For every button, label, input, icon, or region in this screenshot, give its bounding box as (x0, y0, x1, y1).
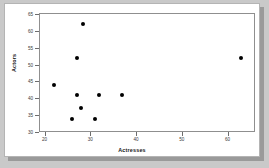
y-tick-label: 50 (28, 62, 33, 67)
data-point (75, 56, 79, 60)
y-tick-label: 40 (28, 96, 33, 101)
chart-card: 3035404550556065 2030405060 Actresses Ac… (4, 3, 260, 157)
y-tick-label: 60 (28, 28, 33, 33)
y-tick-label: 65 (28, 12, 33, 17)
x-tick-label: 50 (179, 137, 184, 142)
data-point (52, 83, 56, 87)
data-point (75, 93, 79, 97)
x-tick-mark (182, 132, 183, 136)
y-tick-label: 35 (28, 113, 33, 118)
data-point (97, 93, 101, 97)
y-tick-mark (35, 48, 39, 49)
data-point (70, 117, 74, 121)
x-tick-label: 30 (88, 137, 93, 142)
data-point (81, 22, 85, 26)
y-tick-label: 55 (28, 45, 33, 50)
y-tick-mark (35, 81, 39, 82)
x-tick-label: 40 (134, 137, 139, 142)
y-tick-mark (35, 98, 39, 99)
x-tick-label: 20 (42, 137, 47, 142)
y-axis-title: Actors (11, 54, 17, 72)
y-tick-label: 45 (28, 79, 33, 84)
y-tick-mark (35, 65, 39, 66)
data-point (93, 117, 97, 121)
y-tick-mark (35, 14, 39, 15)
screenshot-root: 3035404550556065 2030405060 Actresses Ac… (0, 0, 269, 168)
data-point (120, 93, 124, 97)
data-point (79, 106, 83, 110)
y-axis: 3035404550556065 (5, 4, 39, 168)
x-tick-mark (228, 132, 229, 136)
x-axis-title: Actresses (5, 147, 259, 153)
y-tick-label: 30 (28, 130, 33, 135)
y-tick-mark (35, 31, 39, 32)
x-tick-mark (45, 132, 46, 136)
data-point (239, 56, 243, 60)
y-tick-mark (35, 132, 39, 133)
x-tick-mark (136, 132, 137, 136)
x-tick-label: 60 (225, 137, 230, 142)
x-tick-mark (90, 132, 91, 136)
plot-area (40, 14, 255, 132)
y-tick-mark (35, 115, 39, 116)
